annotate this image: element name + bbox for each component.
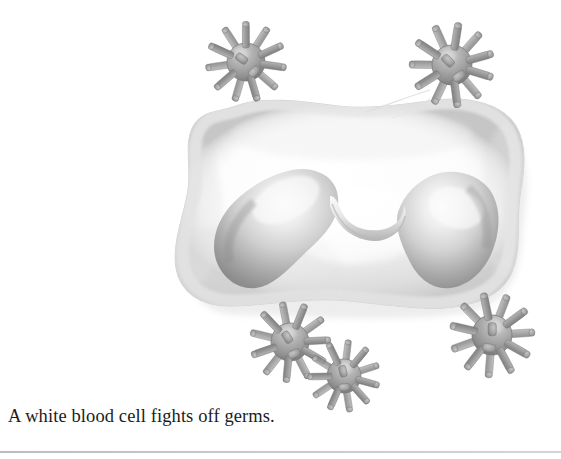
germ-spike — [451, 22, 463, 51]
germ-spike — [247, 74, 261, 102]
page-canvas: A white blood cell fights off germs. — [0, 0, 561, 459]
germ-top-left — [201, 16, 293, 108]
germ-spike — [307, 373, 332, 380]
germ-spike — [465, 66, 494, 81]
germ-spike-cap — [242, 21, 249, 27]
germ-spike-cap — [283, 377, 291, 383]
white-blood-cell — [158, 99, 530, 318]
illustration-figure — [0, 0, 561, 459]
germ-spike — [355, 376, 380, 389]
bottom-page-rule — [0, 451, 561, 453]
germ-spike-cap — [485, 372, 493, 379]
germ-spike — [465, 50, 494, 65]
figure-caption: A white blood cell fights off germs. — [8, 404, 275, 428]
germ-spike — [250, 343, 278, 358]
germ-spike — [502, 307, 529, 330]
germ-spike-cap — [409, 61, 415, 69]
germ-spike — [449, 322, 478, 336]
germ-spike — [213, 69, 238, 92]
germ-spike-cap — [529, 329, 535, 337]
germ-spike — [350, 383, 371, 406]
germ-spike — [242, 21, 249, 48]
germ-spike-cap — [307, 373, 312, 380]
